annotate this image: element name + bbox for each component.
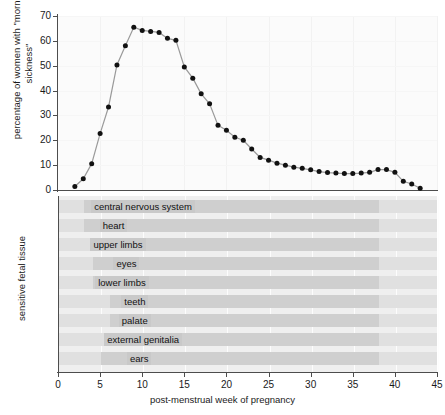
y-axis-title: percentage of women with "morning sickne… bbox=[11, 0, 34, 149]
gridline-vertical bbox=[438, 196, 439, 372]
tissue-label: central nervous system bbox=[91, 200, 195, 213]
tissue-label: lower limbs bbox=[95, 276, 149, 289]
gridline-vertical bbox=[269, 16, 270, 190]
gridline-vertical bbox=[184, 16, 185, 190]
y-axis-tick-label: 50 bbox=[40, 60, 51, 71]
secondary-y-axis-title: sensitive fetal tissue bbox=[16, 214, 27, 344]
x-axis-tick-mark bbox=[184, 372, 185, 377]
y-axis-tick-label: 10 bbox=[40, 159, 51, 170]
tissue-label: palate bbox=[119, 314, 151, 327]
tissue-label: heart bbox=[100, 219, 128, 232]
x-axis-tick-label: 25 bbox=[254, 379, 284, 390]
x-axis-tick-mark bbox=[226, 372, 227, 377]
gridline-horizontal bbox=[58, 140, 437, 141]
y-axis-tick: 40 bbox=[30, 91, 57, 92]
gridline-horizontal bbox=[58, 115, 437, 116]
x-axis-tick-label: 20 bbox=[211, 379, 241, 390]
gridline-vertical bbox=[100, 16, 101, 190]
x-axis-tick-label: 15 bbox=[169, 379, 199, 390]
x-axis-tick-label: 30 bbox=[296, 379, 326, 390]
tissue-sensitivity-bar bbox=[110, 295, 380, 308]
y-axis-tick-label: 30 bbox=[40, 109, 51, 120]
chart-title bbox=[0, 0, 445, 12]
line-chart-plot-area bbox=[58, 16, 437, 190]
y-axis-tick-label: 20 bbox=[40, 134, 51, 145]
y-axis-tick: 30 bbox=[30, 115, 57, 116]
x-axis-zero-line bbox=[57, 190, 438, 191]
tissue-label: external genitalia bbox=[104, 333, 182, 346]
y-axis-tick-label: 60 bbox=[40, 35, 51, 46]
x-axis-tick-mark bbox=[437, 372, 438, 377]
y-axis-tick-mark bbox=[53, 16, 57, 17]
x-axis-tick-mark bbox=[353, 372, 354, 377]
gridline-horizontal bbox=[58, 165, 437, 166]
x-axis-line bbox=[57, 372, 438, 373]
y-axis-tick-mark bbox=[53, 190, 57, 191]
x-axis-tick-mark bbox=[269, 372, 270, 377]
fetal-tissue-panel: central nervous systemheartupper limbsey… bbox=[58, 196, 437, 372]
gridline-vertical bbox=[226, 16, 227, 190]
tissue-label: eyes bbox=[113, 257, 139, 270]
y-axis-tick-mark bbox=[53, 115, 57, 116]
gridline-horizontal bbox=[58, 41, 437, 42]
gridline-vertical bbox=[142, 16, 143, 190]
y-axis-tick-mark bbox=[53, 41, 57, 42]
x-axis-tick-mark bbox=[100, 372, 101, 377]
y-axis-tick: 50 bbox=[30, 66, 57, 67]
gridline-horizontal bbox=[58, 91, 437, 92]
x-axis-tick-mark bbox=[395, 372, 396, 377]
x-axis-tick-mark bbox=[311, 372, 312, 377]
y-axis-tick: 60 bbox=[30, 41, 57, 42]
x-axis-tick-label: 10 bbox=[127, 379, 157, 390]
x-axis-title: post-menstrual week of pregnancy bbox=[0, 394, 445, 405]
x-axis-tick-label: 40 bbox=[380, 379, 410, 390]
y-axis-tick: 10 bbox=[30, 165, 57, 166]
gridline-horizontal bbox=[58, 66, 437, 67]
gridline-vertical bbox=[395, 16, 396, 190]
y-axis-tick-mark bbox=[53, 140, 57, 141]
chart-figure: percentage of women with "morning sickne… bbox=[0, 0, 445, 415]
gridline-horizontal bbox=[58, 16, 437, 17]
gridline-vertical bbox=[437, 16, 438, 190]
y-axis-tick-label: 70 bbox=[40, 10, 51, 21]
x-axis-tick-mark bbox=[58, 372, 59, 377]
y-axis-tick-label: 0 bbox=[45, 184, 51, 195]
tissue-label: ears bbox=[127, 352, 151, 365]
y-axis-tick: 0 bbox=[30, 190, 57, 191]
x-axis-tick-label: 0 bbox=[43, 379, 73, 390]
y-axis-tick-label: 40 bbox=[40, 85, 51, 96]
tissue-label: upper limbs bbox=[90, 238, 145, 251]
tissue-sensitivity-bar bbox=[84, 219, 379, 232]
gridline-vertical bbox=[311, 16, 312, 190]
y-axis-tick-mark bbox=[53, 91, 57, 92]
x-axis-tick-label: 35 bbox=[338, 379, 368, 390]
x-axis-tick-label: 5 bbox=[85, 379, 115, 390]
x-axis-tick-label: 45 bbox=[422, 379, 445, 390]
y-axis-line bbox=[57, 14, 58, 192]
y-axis-tick: 20 bbox=[30, 140, 57, 141]
y-axis-tick-mark bbox=[53, 66, 57, 67]
y-axis-tick: 70 bbox=[30, 16, 57, 17]
x-axis-tick-mark bbox=[142, 372, 143, 377]
gridline-vertical bbox=[353, 16, 354, 190]
y-axis-tick-mark bbox=[53, 165, 57, 166]
tissue-label: teeth bbox=[121, 295, 148, 308]
